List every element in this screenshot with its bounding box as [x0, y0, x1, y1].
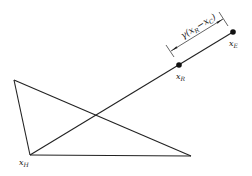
dimension-label: γ(xR−xC): [179, 11, 219, 41]
triangle-edge-left: [14, 80, 30, 155]
expansion-line: [30, 32, 233, 155]
simplex-expansion-diagram: γ(xR−xC) xR xE xH: [0, 0, 252, 176]
dimension-marker: [166, 12, 228, 57]
label-x-e: xE: [229, 39, 239, 49]
point-x-e: [230, 29, 236, 35]
arrowhead-right: [216, 19, 223, 24]
triangle: [14, 80, 191, 156]
triangle-edge-top: [14, 80, 191, 156]
label-x-r: xR: [176, 72, 186, 82]
extension-tick-right: [219, 12, 228, 26]
point-x-r: [176, 62, 182, 68]
extension-tick-left: [166, 45, 174, 57]
arrowhead-left: [171, 46, 178, 51]
triangle-edge-bottom: [30, 155, 191, 156]
label-x-h: xH: [19, 158, 30, 168]
